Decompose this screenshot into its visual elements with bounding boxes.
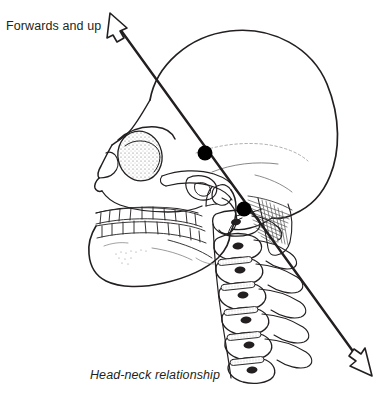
- figure-caption: Head-neck relationship: [0, 368, 310, 382]
- skull-cervical-spine-illustration: [0, 0, 383, 394]
- figure-head-neck-relationship: Forwards and up Head-neck relationship: [0, 0, 383, 394]
- direction-label-forwards-and-up: Forwards and up: [6, 19, 101, 33]
- atlanto-occipital-joint-dot: [198, 146, 213, 161]
- canvas-background: [0, 0, 383, 394]
- odontoid-peg-dot: [237, 202, 252, 217]
